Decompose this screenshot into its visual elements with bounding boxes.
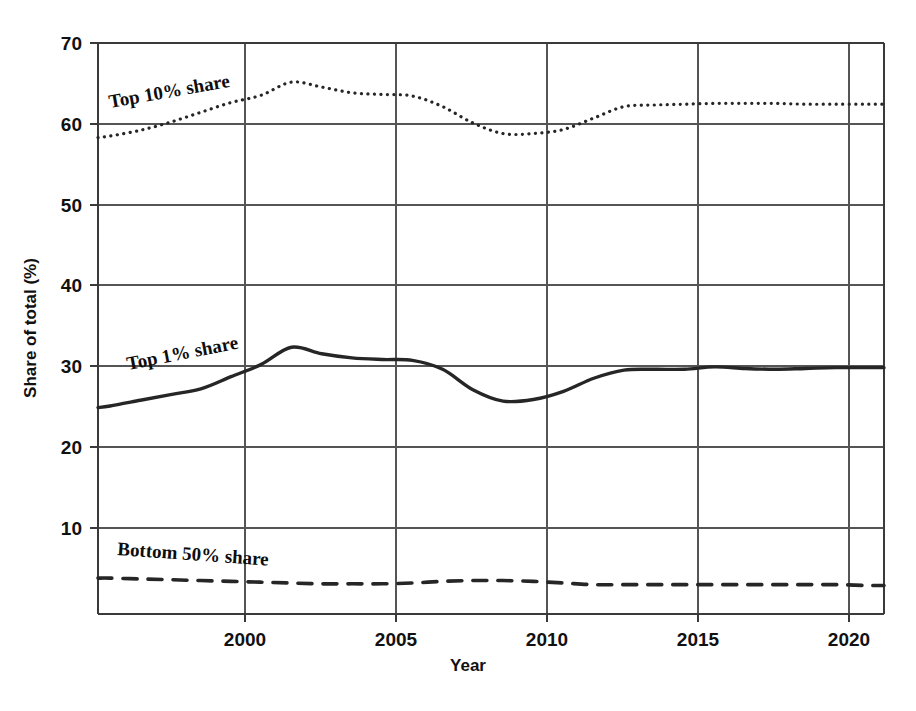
ytick-label-60: 60 xyxy=(61,114,82,135)
xtick-label-2015: 2015 xyxy=(677,629,720,650)
xtick-label-2005: 2005 xyxy=(375,629,418,650)
x-axis-title: Year xyxy=(450,656,486,675)
ytick-label-40: 40 xyxy=(61,275,82,296)
ytick-label-10: 10 xyxy=(61,518,82,539)
ytick-label-50: 50 xyxy=(61,195,82,216)
ytick-label-70: 70 xyxy=(61,33,82,54)
xtick-label-2020: 2020 xyxy=(828,629,870,650)
line-chart-figure: 70 60 50 40 30 20 10 2000 2005 2010 2015… xyxy=(0,0,916,711)
xtick-label-2000: 2000 xyxy=(224,629,266,650)
ytick-label-20: 20 xyxy=(61,437,82,458)
xtick-label-2010: 2010 xyxy=(526,629,568,650)
ytick-label-30: 30 xyxy=(61,356,82,377)
chart-root: 70 60 50 40 30 20 10 2000 2005 2010 2015… xyxy=(0,0,916,711)
y-axis-title: Share of total (%) xyxy=(21,258,40,398)
